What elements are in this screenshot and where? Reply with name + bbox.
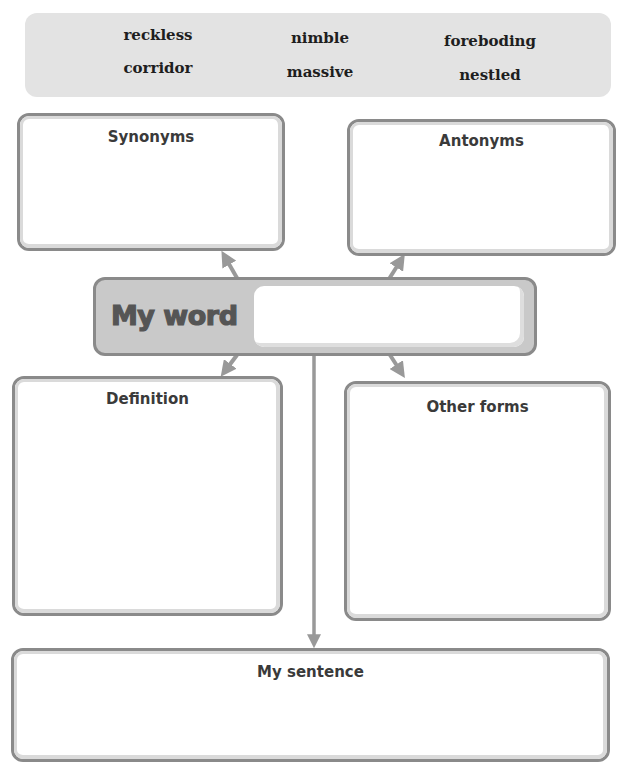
my-word-box: My word [93, 277, 537, 356]
word-bank-item: corridor [123, 59, 192, 77]
synonyms-title: Synonyms [20, 128, 282, 146]
arrow-to-definition-icon [225, 355, 237, 371]
sentence-input[interactable] [24, 689, 595, 749]
sentence-box: My sentence [11, 648, 610, 762]
definition-title: Definition [15, 390, 280, 408]
word-bank: reckless nimble foreboding corridor mass… [25, 13, 611, 97]
definition-input[interactable] [25, 417, 268, 603]
arrow-to-other-forms-icon [390, 355, 401, 372]
my-word-label: My word [111, 300, 238, 331]
word-bank-item: reckless [123, 26, 192, 44]
word-bank-item: foreboding [444, 32, 536, 50]
word-bank-item: massive [287, 63, 353, 81]
other-forms-box: Other forms [344, 381, 611, 621]
definition-box: Definition [12, 376, 283, 616]
arrow-to-synonyms-icon [225, 257, 237, 278]
synonyms-input[interactable] [30, 154, 270, 238]
antonyms-input[interactable] [360, 158, 601, 243]
sentence-title: My sentence [14, 663, 607, 681]
antonyms-title: Antonyms [350, 132, 613, 150]
synonyms-box: Synonyms [17, 113, 285, 251]
other-forms-title: Other forms [347, 398, 608, 416]
antonyms-box: Antonyms [347, 119, 616, 256]
other-forms-input[interactable] [357, 424, 596, 608]
my-word-input[interactable] [254, 286, 524, 347]
word-bank-item: nimble [291, 29, 349, 47]
word-bank-item: nestled [459, 66, 521, 84]
